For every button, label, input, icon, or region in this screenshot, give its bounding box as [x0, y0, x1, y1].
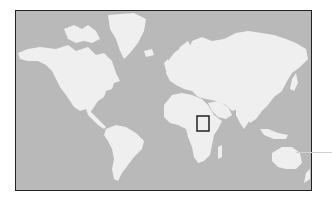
world-map-svg: [16, 11, 311, 190]
land-madagascar: [218, 145, 222, 159]
world-map: [15, 10, 312, 191]
leader-line: [296, 152, 332, 153]
